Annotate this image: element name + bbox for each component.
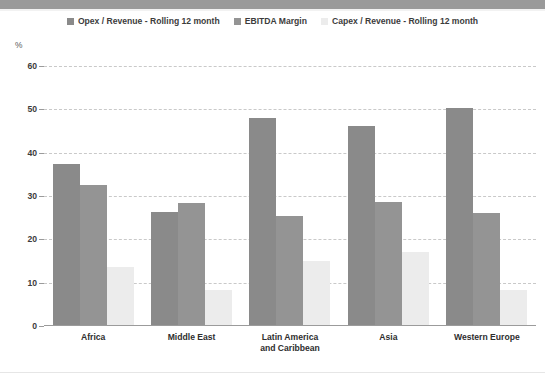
bar[interactable] (178, 203, 205, 327)
bar[interactable] (276, 216, 303, 327)
plot-area: 0102030405060 AfricaMiddle EastLatin Ame… (44, 66, 536, 326)
bar-groups: AfricaMiddle EastLatin Americaand Caribb… (44, 66, 536, 326)
x-axis-label-line: Western Europe (422, 332, 545, 343)
legend-label: Opex / Revenue - Rolling 12 month (78, 16, 220, 26)
legend-item[interactable]: EBITDA Margin (234, 16, 307, 26)
bar[interactable] (473, 213, 500, 326)
bar[interactable] (402, 252, 429, 326)
bars-wrapper (446, 66, 527, 326)
y-axis-tick-label: 20 (3, 234, 37, 244)
y-axis-tick-label: 60 (3, 61, 37, 71)
bar[interactable] (205, 290, 232, 326)
y-axis-tick-label: 40 (3, 148, 37, 158)
bars-wrapper (348, 66, 429, 326)
bar-group: Middle East (142, 66, 240, 326)
chart-container: Opex / Revenue - Rolling 12 monthEBITDA … (0, 0, 545, 378)
legend-swatch-icon (67, 18, 74, 25)
y-axis-tick-label: 10 (3, 278, 37, 288)
top-banner-shadow (0, 9, 545, 11)
bar-group: Western Europe (438, 66, 536, 326)
legend-label: EBITDA Margin (245, 16, 307, 26)
bar-group: Asia (339, 66, 437, 326)
y-axis-unit-label: % (15, 40, 22, 50)
legend-item[interactable]: Opex / Revenue - Rolling 12 month (67, 16, 220, 26)
bar[interactable] (80, 185, 107, 326)
chart-legend: Opex / Revenue - Rolling 12 monthEBITDA … (0, 16, 545, 26)
y-axis-tickmark (39, 326, 44, 327)
bar-group: Africa (44, 66, 142, 326)
y-axis-tick-label: 0 (3, 321, 37, 331)
legend-swatch-icon (321, 18, 328, 25)
x-axis-category-label: Western Europe (422, 332, 545, 343)
bars-wrapper (249, 66, 330, 326)
legend-label: Capex / Revenue - Rolling 12 month (332, 16, 478, 26)
bar[interactable] (53, 164, 80, 326)
bar[interactable] (348, 126, 375, 326)
bars-wrapper (151, 66, 232, 326)
bottom-divider (0, 372, 545, 373)
legend-swatch-icon (234, 18, 241, 25)
y-axis-tick-label: 50 (3, 104, 37, 114)
bar[interactable] (303, 261, 330, 326)
legend-item[interactable]: Capex / Revenue - Rolling 12 month (321, 16, 478, 26)
bar[interactable] (375, 202, 402, 326)
y-axis-tick-label: 30 (3, 191, 37, 201)
top-banner-bar (0, 0, 545, 9)
bars-wrapper (53, 66, 134, 326)
x-axis-label-line: and Caribbean (225, 343, 355, 354)
bar[interactable] (151, 212, 178, 326)
bar[interactable] (500, 290, 527, 326)
bar[interactable] (249, 118, 276, 326)
x-axis-line (44, 325, 536, 326)
bar-group: Latin Americaand Caribbean (241, 66, 339, 326)
bar[interactable] (446, 108, 473, 326)
bar[interactable] (107, 267, 134, 326)
